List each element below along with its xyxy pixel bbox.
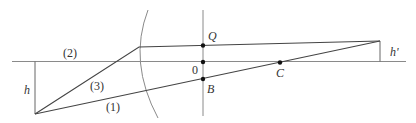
label-ray-3: (3) [90,79,104,93]
point-Q [201,43,205,47]
label-C: C [276,66,285,80]
refracting-surface-arc [140,10,158,118]
label-ray-1: (1) [106,100,120,114]
label-O: 0 [192,63,198,77]
point-B [201,77,205,81]
label-object-height: h [24,83,30,97]
ray-1 [35,41,380,114]
ray-diagram: (2) (3) (1) h h' Q 0 B C [0,0,416,123]
label-Q: Q [208,29,217,43]
point-O [201,60,205,64]
label-image-height: h' [390,45,399,59]
point-C [278,60,282,64]
label-ray-2: (2) [63,46,77,60]
label-B: B [207,82,215,96]
